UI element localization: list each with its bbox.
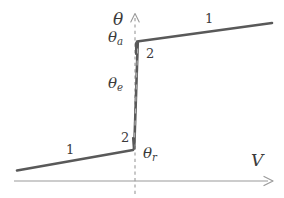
hysteresis-diagram: θ V θa θe θr 1 1 2 2 xyxy=(0,0,284,198)
theta-r-label: θr xyxy=(143,146,157,163)
branch-1-lower-line xyxy=(17,150,133,171)
theta-a-base: θ xyxy=(108,28,117,46)
theta-r-base: θ xyxy=(143,144,152,162)
jump-2-lower-label: 2 xyxy=(121,131,129,144)
theta-a-label: θa xyxy=(108,30,123,47)
v-axis xyxy=(14,177,273,186)
theta-e-label: θe xyxy=(108,76,123,93)
branch-1-lower-label: 1 xyxy=(66,143,74,156)
diagram-canvas xyxy=(0,0,284,198)
theta-r-subscript: r xyxy=(152,152,157,163)
branch-1-upper-label: 1 xyxy=(205,12,213,25)
theta-a-subscript: a xyxy=(117,36,123,47)
theta-e-base: θ xyxy=(108,74,117,92)
theta-r-tick xyxy=(133,138,134,149)
v-axis-label: V xyxy=(251,152,263,169)
theta-axis-label: θ xyxy=(113,11,123,28)
theta-e-subscript: e xyxy=(117,82,123,93)
jump-2-upper-label: 2 xyxy=(146,47,154,60)
